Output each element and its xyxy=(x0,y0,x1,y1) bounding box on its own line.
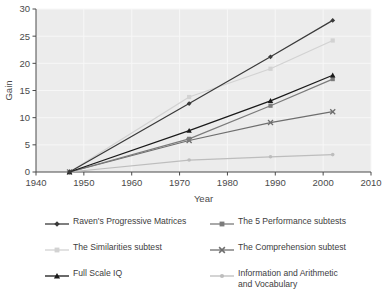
y-tick-label: 5 xyxy=(25,139,30,150)
legend-item-label: Raven's Progressive Matrices xyxy=(73,216,186,227)
x-axis-ticks: 19401950196019701980199020002010 xyxy=(25,172,381,188)
legend-marker-icon xyxy=(44,268,70,280)
data-point xyxy=(331,153,335,157)
legend-item[interactable]: The 5 Performance subtests xyxy=(209,216,346,228)
x-tick-label: 1940 xyxy=(25,177,46,188)
legend-item-label: The Similarities subtest xyxy=(73,242,162,253)
legend-item[interactable]: Full Scale IQ xyxy=(44,268,122,280)
x-tick-label: 1970 xyxy=(169,177,190,188)
legend-marker-icon xyxy=(209,242,235,254)
legend-marker-icon xyxy=(209,216,235,228)
data-point xyxy=(187,158,191,162)
legend-item-label: Full Scale IQ xyxy=(73,268,122,279)
data-point xyxy=(268,104,272,108)
x-tick-label: 1960 xyxy=(121,177,142,188)
y-tick-label: 10 xyxy=(19,112,30,123)
data-point xyxy=(269,155,273,159)
legend-item-label: Information and Arithmetic and Vocabular… xyxy=(238,268,338,289)
y-tick-label: 20 xyxy=(19,58,30,69)
data-point xyxy=(331,38,335,42)
legend-item-label: The 5 Performance subtests xyxy=(238,216,346,227)
legend-marker-icon xyxy=(44,242,70,254)
y-tick-label: 15 xyxy=(19,85,30,96)
legend-item[interactable]: The Comprehension subtest xyxy=(209,242,346,254)
data-point xyxy=(331,77,335,81)
y-axis-title: Gain xyxy=(3,80,14,100)
legend-item[interactable]: Information and Arithmetic and Vocabular… xyxy=(209,268,338,289)
x-tick-label: 2010 xyxy=(360,177,381,188)
legend-marker-icon xyxy=(44,216,70,228)
y-axis-ticks: 051015202530 xyxy=(19,3,36,177)
y-tick-label: 30 xyxy=(19,3,30,14)
x-tick-label: 1950 xyxy=(73,177,94,188)
chart-figure: 0510152025301940195019601970198019902000… xyxy=(0,0,383,296)
y-tick-label: 25 xyxy=(19,31,30,42)
y-tick-label: 0 xyxy=(25,166,30,177)
x-tick-label: 1980 xyxy=(217,177,238,188)
legend-item[interactable]: Raven's Progressive Matrices xyxy=(44,216,186,228)
x-tick-label: 1990 xyxy=(265,177,286,188)
legend-item-label: The Comprehension subtest xyxy=(238,242,346,253)
chart-legend: Raven's Progressive MatricesThe 5 Perfor… xyxy=(0,204,383,296)
data-point xyxy=(187,95,191,99)
data-point xyxy=(187,137,191,141)
data-point xyxy=(268,67,272,71)
x-axis-title: Year xyxy=(194,193,213,204)
line-chart-plot: 0510152025301940195019601970198019902000… xyxy=(0,0,383,204)
x-tick-label: 2000 xyxy=(313,177,334,188)
legend-item[interactable]: The Similarities subtest xyxy=(44,242,162,254)
legend-marker-icon xyxy=(209,268,235,280)
